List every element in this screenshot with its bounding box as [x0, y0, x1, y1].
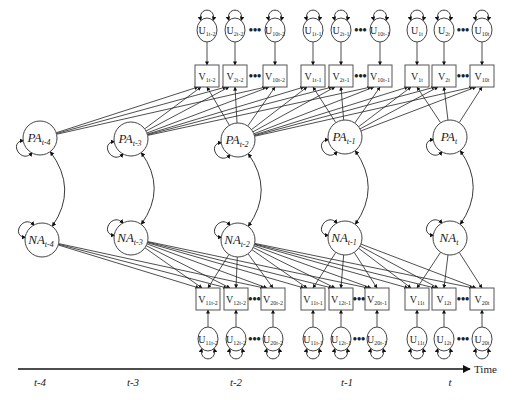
- nodes-layer: PAt-4PAt-3PAt-2PAt-1PAtNAt-4NAt-3NAt-2NA…: [23, 18, 494, 351]
- indicator-box-V1t-2: V1t-2: [195, 65, 219, 87]
- latent-na-t: NAt: [433, 221, 467, 255]
- latent-na-t-4: NAt-4: [25, 223, 59, 257]
- pa-loading-arrow: [145, 87, 201, 129]
- pa-na-covariance: [460, 151, 473, 225]
- unique-factor-U1t: U1t: [407, 18, 427, 42]
- indicator-box-V2t: V2t: [432, 65, 456, 87]
- ellipsis: •••: [353, 332, 366, 346]
- pa-loading-arrow: [444, 87, 448, 120]
- pa-na-covariance: [50, 152, 65, 227]
- indicator-box-V11t-2: V11t-2: [196, 288, 220, 310]
- pa-loading-arrow: [341, 87, 344, 120]
- ellipsis: •••: [353, 292, 366, 306]
- ellipsis: •••: [248, 332, 261, 346]
- time-tick-label: t-3: [127, 376, 140, 388]
- latent-pa-t-1: PAt-1: [328, 120, 362, 154]
- unique-factor-U2t-1: U2t-1: [331, 18, 351, 42]
- indicator-box-V2t-1: V2t-1: [329, 65, 353, 87]
- time-axis: Timet-4t-3t-2t-1t: [18, 363, 497, 388]
- indicator-box-V11t-1: V11t-1: [301, 288, 325, 310]
- unique-factor-U12t: U12t: [434, 327, 454, 351]
- pa-loading-arrow: [360, 87, 438, 129]
- unique-factor-U11t-1: U11t-1: [303, 327, 323, 351]
- latent-pa-t-3: PAt-3: [114, 122, 148, 156]
- latent-pa-t-4: PAt-4: [23, 121, 57, 155]
- ellipsis: •••: [248, 292, 261, 306]
- indicator-box-V12t-2: V12t-2: [224, 288, 248, 310]
- unique-factor-U10t-2: U10t-2: [265, 18, 285, 42]
- unique-factor-U2t-2: U2t-2: [225, 18, 245, 42]
- ellipsis: •••: [354, 23, 367, 37]
- ellipsis: •••: [249, 69, 262, 83]
- ellipsis: •••: [457, 332, 470, 346]
- unique-factor-U2t: U2t: [434, 18, 454, 42]
- latent-na-t-1: NAt-1: [328, 221, 362, 255]
- unique-factor-U20t: U20t: [472, 327, 492, 351]
- unique-factor-U10t-1: U10t-1: [370, 18, 390, 42]
- pa-loading-arrow: [355, 87, 380, 123]
- time-tick-label: t-2: [230, 376, 243, 388]
- unique-factor-U20t-2: U20t-2: [263, 327, 283, 351]
- time-axis-title: Time: [474, 363, 497, 375]
- sem-path-diagram: PAt-4PAt-3PAt-2PAt-1PAtNAt-4NAt-3NAt-2NA…: [0, 0, 515, 400]
- pa-na-covariance: [248, 154, 261, 227]
- indicator-box-V10t: V10t: [470, 65, 494, 87]
- ellipsis: •••: [457, 23, 470, 37]
- pa-na-covariance: [355, 151, 368, 225]
- time-tick-label: t: [448, 376, 452, 388]
- na-loading-arrow: [248, 254, 273, 288]
- na-loading-arrow: [354, 252, 377, 288]
- unique-factor-U1t-2: U1t-2: [197, 18, 217, 42]
- unique-factor-U11t-2: U11t-2: [198, 327, 218, 351]
- latent-pa-t-2: PAt-2: [221, 123, 255, 157]
- indicator-box-V10t-1: V10t-1: [368, 65, 392, 87]
- unique-factor-U1t-1: U1t-1: [303, 18, 323, 42]
- indicator-box-V2t-2: V2t-2: [223, 65, 247, 87]
- indicator-box-V20t-2: V20t-2: [261, 288, 285, 310]
- indicator-box-V1t: V1t: [405, 65, 429, 87]
- indicator-box-V1t-1: V1t-1: [301, 65, 325, 87]
- indicator-box-V20t-1: V20t-1: [365, 288, 389, 310]
- pa-loading-arrow: [248, 87, 275, 126]
- unique-factor-U10t: U10t: [472, 18, 492, 42]
- time-tick-label: t-1: [341, 376, 353, 388]
- ellipsis: •••: [249, 23, 262, 37]
- indicator-box-V20t: V20t: [470, 288, 494, 310]
- pa-loading-arrow: [235, 87, 237, 123]
- na-loading-arrow: [236, 257, 237, 288]
- latent-na-t-3: NAt-3: [114, 221, 148, 255]
- time-tick-label: t-4: [34, 376, 47, 388]
- ellipsis: •••: [354, 69, 367, 83]
- na-loading-arrow: [359, 248, 411, 288]
- latent-label: NAt: [439, 230, 460, 247]
- ellipsis: •••: [457, 292, 470, 306]
- indicator-box-V11t: V11t: [405, 288, 429, 310]
- na-loading-arrow: [252, 250, 307, 288]
- unique-factor-U20t-1: U20t-1: [367, 327, 387, 351]
- latent-na-t-2: NAt-2: [221, 223, 255, 257]
- indicator-box-V10t-2: V10t-2: [263, 65, 287, 87]
- ellipsis: •••: [457, 69, 470, 83]
- latent-pa-t: PAt: [433, 120, 467, 154]
- na-loading-arrow: [254, 245, 408, 288]
- unique-factor-U12t-1: U12t-1: [331, 327, 351, 351]
- unique-factor-U11t: U11t: [407, 327, 427, 351]
- unique-factor-U12t-2: U12t-2: [226, 327, 246, 351]
- pa-na-covariance: [141, 153, 154, 225]
- indicator-box-V12t-1: V12t-1: [329, 288, 353, 310]
- indicator-box-V12t: V12t: [432, 288, 456, 310]
